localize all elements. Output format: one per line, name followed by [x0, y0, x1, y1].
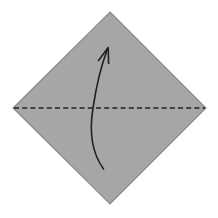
diagram-canvas: Origami fold step diagram Square paper o…: [0, 0, 218, 218]
origami-diagram: [0, 0, 218, 218]
